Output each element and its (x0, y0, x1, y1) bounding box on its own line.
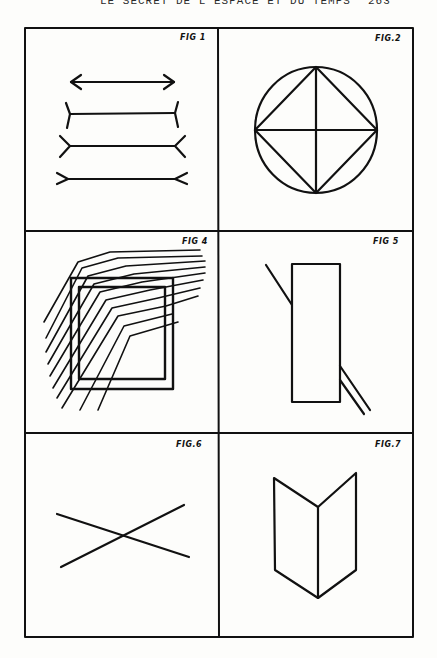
figure-1-label: FIG 1 (180, 33, 206, 42)
figure-7-label: FIG.7 (375, 440, 401, 449)
figure-2: FIG.2 (255, 34, 401, 193)
figure-2-label: FIG.2 (375, 34, 401, 43)
figure-4-label: FIG 4 (182, 237, 208, 246)
figure-5-label: FIG 5 (373, 237, 399, 246)
plate-frame (25, 28, 413, 637)
figure-7: FIG.7 (274, 440, 401, 598)
figure-4: FIG 4 (44, 237, 208, 410)
figure-6: FIG.6 (57, 440, 202, 567)
figure-plate: FIG 1 FIG.2 FIG 4 (0, 0, 437, 658)
figure-6-label: FIG.6 (176, 440, 202, 449)
figure-5: FIG 5 (266, 237, 399, 414)
figure-1: FIG 1 (57, 33, 206, 184)
